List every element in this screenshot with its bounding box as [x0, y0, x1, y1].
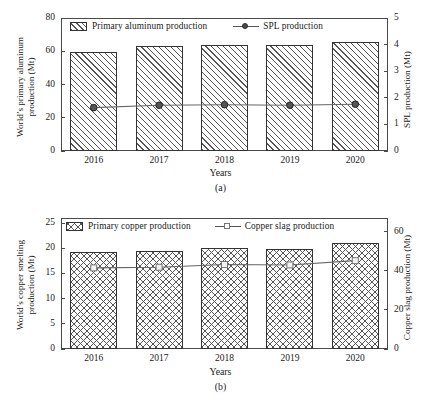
panel-b-x-axis-title: Years [0, 366, 441, 377]
data-point-marker [91, 265, 97, 271]
panel-b-caption: (b) [0, 381, 441, 392]
data-point-marker [352, 101, 359, 108]
cross-hatch-swatch-icon [66, 222, 83, 231]
data-point-marker [287, 102, 294, 109]
figure-container: World’s primary aluminum production (Mt)… [0, 0, 441, 406]
x-axis-tick-label: 2019 [260, 155, 320, 165]
panel-a-legend-item-bar: Primary aluminum production [70, 21, 207, 31]
x-axis-tick-label: 2016 [64, 353, 124, 363]
panel-b-legend-bar-label: Primary copper production [88, 221, 191, 231]
x-axis-tick-label: 2019 [260, 353, 320, 363]
x-axis-tick-label: 2017 [129, 353, 189, 363]
panel-a-legend: Primary aluminum production SPL producti… [70, 18, 323, 34]
line-marker-square-icon [215, 222, 241, 231]
panel-a-caption: (a) [0, 182, 441, 193]
data-point-marker [156, 264, 162, 270]
panel-b-legend-line-label: Copper slag production [245, 221, 334, 231]
x-axis-tick-label: 2020 [325, 155, 385, 165]
panel-a-legend-bar-label: Primary aluminum production [92, 21, 207, 31]
line-marker-circle-icon [233, 22, 259, 31]
x-axis-tick-label: 2017 [129, 155, 189, 165]
panel-b-legend-item-bar: Primary copper production [66, 221, 191, 231]
data-point-marker [221, 101, 228, 108]
data-point-marker [287, 262, 293, 268]
chart-panel-b: World’s copper smelting production (Mt) … [0, 196, 441, 406]
panel-a-legend-item-line: SPL production [233, 21, 323, 31]
data-point-marker [90, 104, 97, 111]
panel-a-x-axis-title: Years [0, 167, 441, 178]
x-axis-tick-label: 2018 [195, 155, 255, 165]
panel-b-legend: Primary copper production Copper slag pr… [66, 218, 334, 234]
panel-b-legend-item-line: Copper slag production [215, 221, 334, 231]
x-axis-tick-label: 2020 [325, 353, 385, 363]
hatch-swatch-icon [70, 22, 87, 31]
data-point-marker [156, 102, 163, 109]
data-point-marker [352, 258, 358, 264]
x-axis-tick-label: 2016 [64, 155, 124, 165]
panel-a-legend-line-label: SPL production [263, 21, 323, 31]
chart-panel-a: World’s primary aluminum production (Mt)… [0, 0, 441, 200]
data-point-marker [222, 262, 228, 268]
x-axis-tick-label: 2018 [195, 353, 255, 363]
